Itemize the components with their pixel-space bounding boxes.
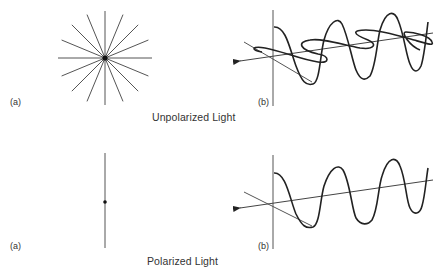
- vertical-wave: [274, 13, 428, 84]
- polarized-line-diagram: [103, 153, 107, 248]
- panel-b-label-bottom: (b): [258, 241, 269, 251]
- unpolarized-star-diagram: [58, 11, 152, 105]
- diagonal-axis: [244, 192, 312, 226]
- caption-unpolarized: Unpolarized Light: [152, 111, 235, 123]
- center-dot: [103, 200, 107, 204]
- caption-polarized: Polarized Light: [147, 255, 218, 267]
- panel-a-label-bottom: (a): [10, 241, 21, 251]
- panel-a-label-top: (a): [10, 97, 21, 107]
- center-dot: [102, 55, 107, 60]
- polarized-wave-diagram: [240, 155, 433, 249]
- figure-canvas: [0, 0, 448, 279]
- unpolarized-wave-diagram: [240, 10, 433, 106]
- panel-b-label-top: (b): [258, 97, 269, 107]
- vertical-wave: [274, 159, 428, 227]
